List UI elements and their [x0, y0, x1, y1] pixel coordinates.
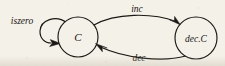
inc-arrowhead [169, 16, 180, 25]
edge-label-dec: dec [132, 53, 146, 63]
edge-label-inc: inc [131, 4, 143, 14]
node-dec-c[interactable]: dec.C [175, 17, 217, 59]
node-c[interactable]: C [58, 17, 98, 57]
dec-arrowhead [96, 44, 108, 52]
diagram-canvas: C dec.C iszero inc dec [0, 0, 225, 66]
inc-arc [94, 15, 176, 25]
state-diagram: C dec.C iszero inc dec [0, 0, 225, 66]
edge-inc [94, 15, 181, 25]
node-dec-c-label: dec.C [185, 34, 208, 44]
edge-label-iszero: iszero [11, 16, 34, 26]
node-c-label: C [74, 31, 82, 43]
